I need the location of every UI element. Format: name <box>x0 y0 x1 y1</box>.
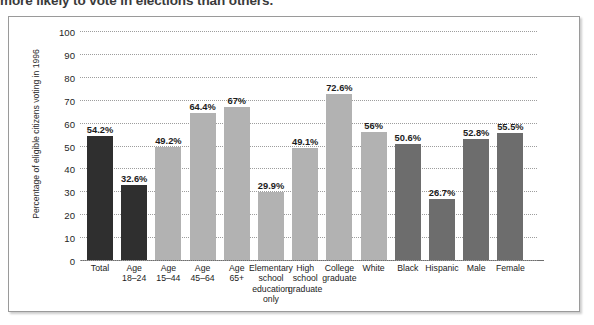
y-axis-tick: 90 <box>64 49 75 60</box>
bar[interactable]: 26.7% <box>429 199 455 260</box>
bar[interactable]: 54.2% <box>87 136 113 260</box>
x-axis-label-line: graduate <box>316 273 362 283</box>
bar[interactable]: 64.4% <box>190 113 216 260</box>
bar-value-label: 32.6% <box>121 174 147 184</box>
plot-area: 100908070605040302010054.2%32.6%49.2%64.… <box>80 31 537 260</box>
bar[interactable]: 49.1% <box>292 148 318 260</box>
caption-text: more likely to vote in elections than ot… <box>0 0 594 11</box>
y-axis-tick: 80 <box>64 72 75 83</box>
bar-value-label: 55.5% <box>497 122 523 132</box>
y-axis-tick: 100 <box>59 27 75 38</box>
bar-value-label: 64.4% <box>189 102 215 112</box>
y-axis-tick: 40 <box>64 164 75 175</box>
bar[interactable]: 50.6% <box>395 144 421 260</box>
y-axis-tick: 70 <box>64 95 75 106</box>
y-axis-tick: 10 <box>64 233 75 244</box>
bar-value-label: 29.9% <box>258 181 284 191</box>
bar[interactable]: 52.8% <box>463 139 489 260</box>
bar[interactable]: 56% <box>361 132 387 260</box>
bar[interactable]: 55.5% <box>497 133 523 260</box>
bar-value-label: 52.8% <box>463 128 489 138</box>
gridline: 80 <box>80 77 537 78</box>
bar[interactable]: 32.6% <box>121 185 147 260</box>
y-axis-tick: 50 <box>64 141 75 152</box>
x-axis-label-line: Female <box>487 263 533 273</box>
x-axis-label-line: only <box>248 294 294 304</box>
figure-frame: Percentage of eligible citizens voting i… <box>8 16 580 312</box>
bar-value-label: 56% <box>364 121 383 131</box>
gridline: 90 <box>80 54 537 55</box>
y-axis-tick: 0 <box>70 256 75 267</box>
clipped-caption: more likely to vote in elections than ot… <box>0 0 594 11</box>
bar[interactable]: 72.6% <box>326 94 352 260</box>
gridline: 60 <box>80 123 537 124</box>
gridline: 70 <box>80 100 537 101</box>
bar-value-label: 50.6% <box>395 133 421 143</box>
bar-value-label: 49.2% <box>155 136 181 146</box>
y-axis-tick: 20 <box>64 210 75 221</box>
gridline: 100 <box>80 31 537 32</box>
x-axis-category-label: Female <box>487 263 533 273</box>
y-axis-title: Percentage of eligible citizens voting i… <box>31 19 41 249</box>
y-axis-tick: 30 <box>64 187 75 198</box>
bar[interactable]: 49.2% <box>155 147 181 260</box>
x-axis-labels: TotalAge18–24Age15–44Age45–64Age65+Eleme… <box>80 263 550 319</box>
y-axis-tick: 60 <box>64 118 75 129</box>
bar[interactable]: 67% <box>224 107 250 260</box>
bar-value-label: 54.2% <box>87 125 113 135</box>
bar-value-label: 67% <box>227 96 246 106</box>
bar-value-label: 72.6% <box>326 83 352 93</box>
chart-page: more likely to vote in elections than ot… <box>0 0 594 325</box>
gridline: 0 <box>80 260 537 261</box>
bar[interactable]: 29.9% <box>258 192 284 260</box>
bar-value-label: 49.1% <box>292 137 318 147</box>
x-axis-label-line: graduate <box>282 284 328 294</box>
bar-value-label: 26.7% <box>429 188 455 198</box>
